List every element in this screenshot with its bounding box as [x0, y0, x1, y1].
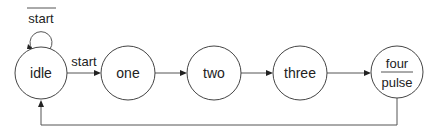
- transition-three-four: [327, 70, 371, 76]
- transition-idle-self-loop: start: [27, 8, 56, 49]
- state-diagram: start start idle one two three: [0, 0, 429, 132]
- state-output-label: pulse: [381, 75, 412, 90]
- arrowhead-icon: [94, 70, 101, 76]
- state-three: three: [273, 46, 327, 100]
- state-two: two: [187, 46, 241, 100]
- self-loop-arc: [30, 32, 52, 49]
- arrowhead-icon: [364, 70, 371, 76]
- state-label: one: [116, 65, 140, 81]
- arrowhead-icon: [38, 100, 44, 107]
- self-loop-label: start: [28, 11, 54, 26]
- arrowhead-icon: [180, 70, 187, 76]
- state-label: three: [284, 65, 316, 81]
- transition-four-idle: [38, 98, 397, 125]
- state-four: four pulse: [371, 46, 423, 98]
- arrowhead-icon: [266, 70, 273, 76]
- state-label: idle: [30, 65, 52, 81]
- state-label: two: [203, 65, 225, 81]
- transition-idle-one: start: [67, 54, 101, 76]
- state-label: four: [386, 56, 409, 71]
- state-one: one: [101, 46, 155, 100]
- transition-one-two: [155, 70, 187, 76]
- state-idle: idle: [15, 47, 67, 99]
- transition-two-three: [241, 70, 273, 76]
- transition-label-start: start: [71, 54, 97, 69]
